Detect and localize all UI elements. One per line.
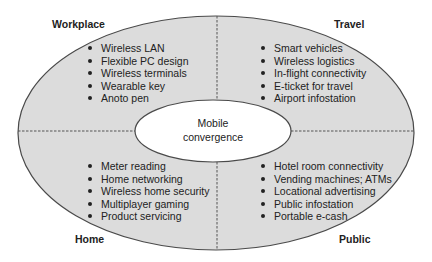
mobile-convergence-diagram: Mobile convergence Workplace Wireless LA… [0, 0, 432, 262]
list-item: Meter reading [101, 160, 166, 172]
bullet-icon [88, 71, 92, 75]
bullet-icon [261, 189, 265, 193]
bullet-icon [88, 189, 92, 193]
list-item: Flexible PC design [101, 55, 189, 67]
bullet-icon [88, 164, 92, 168]
list-item: Public infostation [274, 198, 354, 210]
bullet-icon [261, 71, 265, 75]
list-item: Wireless LAN [101, 42, 165, 54]
list-item: In-flight connectivity [274, 67, 367, 79]
bullet-icon [88, 46, 92, 50]
list-item: Wearable key [101, 80, 166, 92]
list-item: Product servicing [101, 210, 182, 222]
bullet-icon [88, 214, 92, 218]
bullet-icon [88, 202, 92, 206]
bullet-icon [261, 84, 265, 88]
center-label-line2: convergence [183, 131, 243, 143]
bullet-icon [261, 214, 265, 218]
region-label-workplace: Workplace [52, 18, 105, 30]
region-label-public: Public [339, 233, 371, 245]
list-item: Portable e-cash [274, 210, 348, 222]
list-item: Locational advertising [274, 185, 376, 197]
list-item: Smart vehicles [274, 42, 343, 54]
bullet-icon [261, 164, 265, 168]
bullet-icon [88, 59, 92, 63]
bullet-icon [88, 177, 92, 181]
list-item: Anoto pen [101, 92, 149, 104]
region-label-home: Home [75, 233, 104, 245]
list-item: Multiplayer gaming [101, 198, 189, 210]
list-item: Wireless home security [101, 185, 210, 197]
bullet-icon [88, 84, 92, 88]
list-item: Wireless logistics [274, 55, 355, 67]
list-item: Wireless terminals [101, 67, 187, 79]
list-item: Hotel room connectivity [274, 160, 384, 172]
bullet-icon [261, 46, 265, 50]
list-item: Vending machines; ATMs [274, 173, 392, 185]
list-item: Airport infostation [274, 92, 356, 104]
bullet-icon [88, 96, 92, 100]
bullet-icon [261, 59, 265, 63]
list-item: Home networking [101, 173, 183, 185]
center-label-line1: Mobile [198, 117, 229, 129]
list-item: E-ticket for travel [274, 80, 353, 92]
bullet-icon [261, 177, 265, 181]
bullet-icon [261, 96, 265, 100]
bullet-icon [261, 202, 265, 206]
region-label-travel: Travel [334, 18, 364, 30]
